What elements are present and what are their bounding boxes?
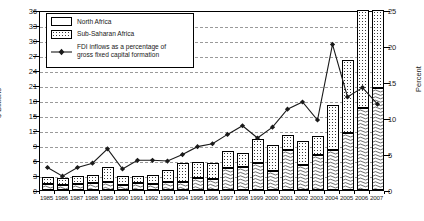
fdi-line-marker <box>210 141 215 146</box>
y2-axis-tick-label: 15 <box>388 79 412 88</box>
fdi-line-marker <box>225 132 230 137</box>
x-axis-tick-mark <box>144 191 145 194</box>
x-axis-tick-label: 2001 <box>280 194 293 201</box>
x-axis-tick-label: 1998 <box>235 194 248 201</box>
x-axis-tick-label: 1989 <box>100 194 113 201</box>
x-axis-tick-mark <box>84 191 85 194</box>
x-axis-tick-label: 1987 <box>70 194 83 201</box>
x-axis-tick-label: 2005 <box>340 194 353 201</box>
x-axis-tick-mark <box>174 191 175 194</box>
legend-label-north-africa: North Africa <box>77 17 111 25</box>
swatch-sub-saharan-africa-icon <box>51 30 72 39</box>
x-axis-tick-mark <box>354 191 355 194</box>
x-axis-tick-label: 2000 <box>265 194 278 201</box>
x-axis-tick-label: 1985 <box>40 194 53 201</box>
x-axis-tick-label: 1992 <box>145 194 158 201</box>
swatch-fdi-line-icon <box>51 43 72 52</box>
y2-axis-tick-label: 5 <box>388 151 412 160</box>
x-axis-tick-label: 1996 <box>205 194 218 201</box>
x-axis-tick-mark <box>54 191 55 194</box>
fdi-line-marker <box>180 152 185 157</box>
x-axis-tick-label: 2006 <box>355 194 368 201</box>
fdi-line-marker <box>60 174 65 179</box>
x-axis-tick-mark <box>339 191 340 194</box>
legend-label-fdi-line: FDI inflows as a percentage of gross fix… <box>77 43 166 59</box>
x-axis-tick-mark <box>294 191 295 194</box>
fdi-line-marker <box>165 158 170 163</box>
x-axis-tick-label: 1995 <box>190 194 203 201</box>
legend-label-fdi-line-1: FDI inflows as a percentage of <box>77 43 166 50</box>
y2-axis-tick-label: 20 <box>388 43 412 52</box>
x-axis-tick-mark <box>39 191 40 194</box>
x-axis-tick-label: 1999 <box>250 194 263 201</box>
x-axis-tick-mark <box>99 191 100 194</box>
x-axis-labels: 1985198619871988198919901991199219931994… <box>39 194 384 208</box>
fdi-line-marker <box>45 165 50 170</box>
x-axis-tick-label: 1993 <box>160 194 173 201</box>
fdi-line-marker <box>330 42 335 47</box>
x-axis-tick-mark <box>309 191 310 194</box>
x-axis-tick-mark <box>264 191 265 194</box>
x-axis-tick-label: 1988 <box>85 194 98 201</box>
x-axis-tick-label: 1994 <box>175 194 188 201</box>
y2-axis-tick-label: 25 <box>388 7 412 16</box>
x-axis-tick-mark <box>204 191 205 194</box>
y2-axis-tick-label: 10 <box>388 115 412 124</box>
x-axis-tick-mark <box>129 191 130 194</box>
x-axis-tick-label: 1986 <box>55 194 68 201</box>
fdi-line-marker <box>150 158 155 163</box>
chart-root: $ Billions Percent 036912151821242730333… <box>0 0 424 221</box>
legend-item-fdi-line: FDI inflows as a percentage of gross fix… <box>51 43 189 59</box>
x-axis-tick-mark <box>69 191 70 194</box>
x-axis-tick-mark <box>279 191 280 194</box>
x-axis-tick-mark <box>159 191 160 194</box>
fdi-line-marker <box>135 158 140 163</box>
legend-label-sub-saharan-africa: Sub-Saharan Africa <box>77 30 134 38</box>
x-axis-tick-mark <box>189 191 190 194</box>
swatch-north-africa-icon <box>51 17 72 26</box>
fdi-line-marker <box>195 144 200 149</box>
x-axis-tick-label: 1997 <box>220 194 233 201</box>
y2-axis-tick-label: 0 <box>388 187 412 196</box>
x-axis-tick-mark <box>234 191 235 194</box>
x-axis-tick-label: 2002 <box>295 194 308 201</box>
x-axis-tick-label: 2004 <box>325 194 338 201</box>
x-axis-tick-mark <box>324 191 325 194</box>
x-axis-tick-mark <box>114 191 115 194</box>
x-axis-tick-mark <box>219 191 220 194</box>
fdi-line-marker <box>345 94 350 99</box>
y-axis-title: $ Billions <box>0 88 3 118</box>
x-axis-tick-label: 2007 <box>370 194 383 201</box>
legend-item-sub-saharan-africa: Sub-Saharan Africa <box>51 30 189 39</box>
x-axis-tick-label: 2003 <box>310 194 323 201</box>
x-axis-tick-mark <box>369 191 370 194</box>
y2-axis-title: Percent <box>414 66 423 92</box>
x-axis-tick-mark <box>249 191 250 194</box>
x-axis-tick-label: 1990 <box>115 194 128 201</box>
legend-label-fdi-line-2: gross fixed capital formation <box>77 51 159 58</box>
fdi-line-marker <box>75 165 80 170</box>
legend-item-north-africa: North Africa <box>51 17 189 26</box>
x-axis-tick-label: 1991 <box>130 194 143 201</box>
chart-legend: North Africa Sub-Saharan Africa FDI infl… <box>46 13 194 68</box>
x-axis-tick-mark <box>384 191 385 194</box>
